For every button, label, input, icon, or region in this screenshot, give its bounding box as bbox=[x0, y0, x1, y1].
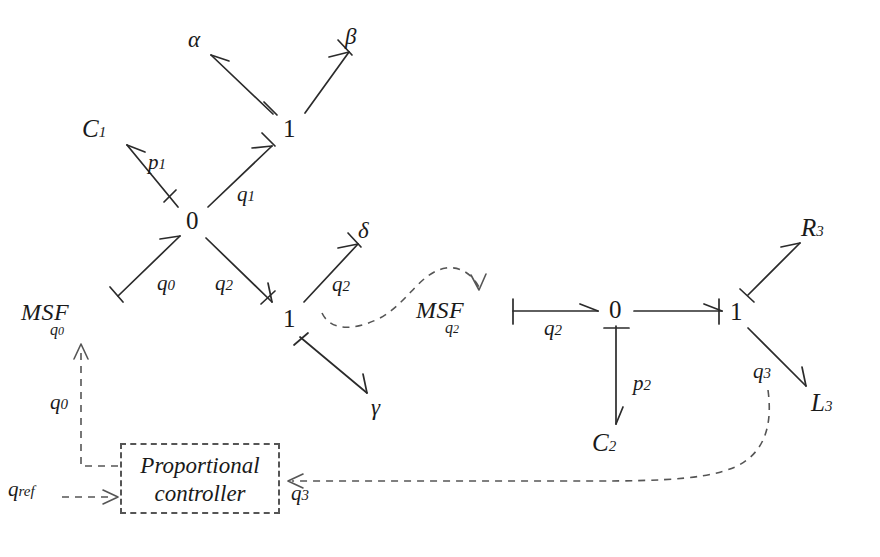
element-msf-q2-subscript: q2 bbox=[445, 320, 459, 336]
junction-1-right: 1 bbox=[730, 299, 743, 324]
bond-label-q1: q1 bbox=[237, 184, 255, 205]
bond-label-p2: p2 bbox=[633, 373, 651, 394]
port-delta: δ bbox=[358, 219, 369, 242]
port-beta: β bbox=[345, 25, 356, 48]
element-r3: R3 bbox=[801, 215, 824, 240]
bond-r3 bbox=[740, 243, 800, 302]
port-alpha: α bbox=[188, 28, 200, 51]
junction-0-left: 0 bbox=[186, 208, 199, 233]
element-msf-q0: MSF bbox=[21, 300, 69, 324]
port-gamma: γ bbox=[371, 396, 380, 419]
bond-beta bbox=[305, 40, 352, 113]
bond-gamma bbox=[294, 333, 367, 393]
element-c2: C2 bbox=[592, 430, 616, 455]
junction-1-top: 1 bbox=[283, 116, 296, 141]
signal-label-qref: qref bbox=[8, 479, 35, 500]
bond-label-q0-left: q0 bbox=[157, 273, 175, 294]
bond-p2 bbox=[604, 326, 629, 424]
element-msf-q2: MSF bbox=[416, 298, 464, 322]
bond-label-q2-delta: q2 bbox=[332, 274, 350, 295]
signal-label-q0: q0 bbox=[50, 392, 68, 413]
bond-label-q2-right: q2 bbox=[544, 318, 562, 339]
bond-label-q2-left: q2 bbox=[215, 273, 233, 294]
signal-label-q3: q3 bbox=[291, 483, 309, 504]
proportional-controller-label: Proportional controller bbox=[120, 452, 280, 507]
signal-q3-feedback bbox=[288, 390, 769, 488]
controller-label-line2: controller bbox=[120, 480, 280, 508]
junction-1-mid: 1 bbox=[283, 306, 296, 331]
signal-qref bbox=[62, 490, 118, 504]
controller-label-line1: Proportional bbox=[120, 452, 280, 480]
element-msf-q0-subscript: q0 bbox=[50, 322, 64, 338]
junction-0-right: 0 bbox=[609, 297, 622, 322]
signal-controller-to-msf0 bbox=[74, 344, 118, 466]
element-c1: C1 bbox=[82, 116, 106, 141]
bond-graph-figure: .bond{stroke:#2b2b2b;stroke-width:1.7;fi… bbox=[0, 0, 880, 557]
bond-0right-1right bbox=[634, 299, 722, 324]
bond-label-q3-right: q3 bbox=[753, 361, 771, 382]
bond-label-p1: p1 bbox=[148, 152, 166, 173]
bond-alpha bbox=[211, 55, 277, 115]
element-l3: L3 bbox=[811, 390, 832, 415]
